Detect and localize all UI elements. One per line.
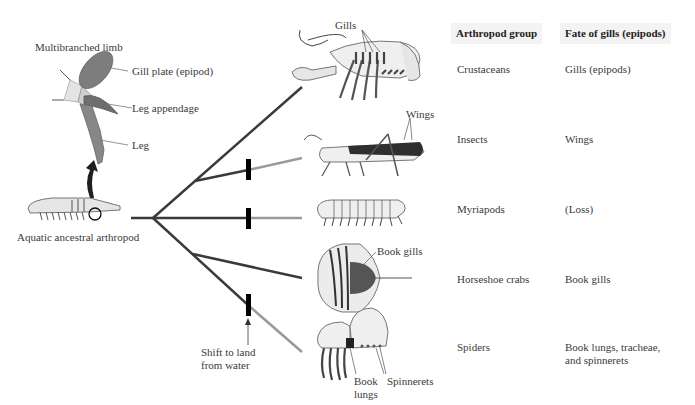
row-insects-group: Insects: [457, 133, 488, 146]
land-shift-marker-myriapods: [246, 208, 251, 229]
limb-title: Multibranched limb: [35, 41, 123, 54]
phylogenetic-tree: [131, 87, 302, 352]
leg-shape: [80, 104, 104, 164]
row-spiders-group: Spiders: [457, 341, 490, 354]
row-insects-fate: Wings: [565, 133, 593, 146]
shift-label-line2: from water: [201, 359, 250, 372]
curved-arrow-icon: [86, 160, 98, 198]
row-spiders-fate-line2: and spinnerets: [565, 354, 628, 367]
row-crustaceans-group: Crustaceans: [457, 63, 510, 76]
row-myriapods-fate: (Loss): [565, 203, 593, 216]
spinnerets-label: Spinnerets: [387, 375, 433, 388]
up-arrow-icon: [245, 318, 251, 325]
insect-illustration: [304, 118, 424, 176]
spider-illustration: [318, 308, 389, 380]
header-fate-of-gills: Fate of gills (epipods): [560, 23, 671, 44]
branch-chelicerates: [153, 218, 248, 305]
shift-label-line1: Shift to land: [201, 346, 255, 359]
leg-label: Leg: [132, 139, 149, 152]
header-arthropod-group: Arthropod group: [451, 23, 542, 44]
row-horseshoe-crabs-group: Horseshoe crabs: [457, 273, 529, 286]
gill-plate-label: Gill plate (epipod): [132, 65, 213, 78]
branch-spiders: [248, 305, 302, 352]
gills-label: Gills: [335, 19, 356, 32]
branch-horseshoe-crabs: [193, 254, 302, 278]
wings-label: Wings: [406, 108, 434, 121]
crustacean-illustration: [292, 30, 420, 100]
row-spiders-fate-line1: Book lungs, tracheae,: [565, 341, 660, 354]
row-myriapods-group: Myriapods: [457, 203, 505, 216]
land-shift-marker-insects: [246, 159, 251, 180]
book-gills-label: Book gills: [377, 245, 423, 258]
land-shift-marker-spiders: [246, 294, 251, 316]
book-lungs-label-line1: Book: [354, 375, 378, 388]
multibranched-limb-illustration: [52, 45, 132, 164]
leg-appendage-label: Leg appendage: [132, 102, 199, 115]
row-crustaceans-fate: Gills (epipods): [565, 63, 631, 76]
book-lungs-label-line2: lungs: [354, 388, 378, 401]
ancestral-arthropod-illustration: [28, 198, 120, 220]
ancestor-label: Aquatic ancestral arthropod: [17, 231, 139, 244]
row-horseshoe-crabs-fate: Book gills: [565, 273, 611, 286]
myriapod-illustration: [318, 200, 406, 226]
